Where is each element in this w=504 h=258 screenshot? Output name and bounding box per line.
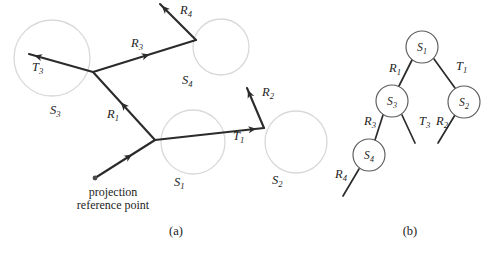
ray-arrowhead-r2 (245, 89, 255, 99)
surface-circle-s2 (265, 111, 327, 173)
projection-reference-point-label-line1: projection (89, 185, 138, 199)
surface-circle-s1 (161, 110, 225, 174)
tree-edge-label-t1: T1 (456, 59, 467, 75)
label-surface-s4: S4 (182, 73, 193, 89)
tree-edge-t3 (402, 115, 415, 143)
surface-circle-s3 (14, 20, 90, 96)
tree-edge-label-r2: R2 (435, 114, 449, 130)
label-surface-s2: S2 (272, 173, 283, 189)
ray-arrowheads-group (33, 3, 257, 162)
label-ray-r4: R4 (179, 3, 193, 19)
panel-a-labels-group: S3 S4 S1 S2 R1 R3 R4 R2 T3 T1 (32, 3, 283, 191)
tree-edge-r1 (399, 60, 412, 86)
label-surface-s3: S3 (50, 103, 61, 119)
tree-edge-label-r4: R4 (334, 167, 348, 183)
label-ray-t3: T3 (32, 60, 43, 76)
ray-tree-figure: S3 S4 S1 S2 R1 R3 R4 R2 T3 T1 projection… (0, 0, 504, 258)
label-ray-r3: R3 (130, 36, 143, 52)
surface-circles-group (14, 19, 327, 174)
tree-edge-r3 (375, 115, 383, 140)
panel-b-group: S1 S3 S2 S4 R1 T1 R3 T3 R2 R4 (b) (334, 31, 480, 238)
surface-circle-s4 (193, 19, 249, 75)
panel-a-group: S3 S4 S1 S2 R1 R3 R4 R2 T3 T1 projection… (14, 3, 327, 238)
caption-panel-b: (b) (403, 224, 418, 238)
label-ray-t1: T1 (233, 129, 244, 145)
tree-edge-label-r1: R1 (388, 61, 401, 77)
projection-reference-point-label-line2: reference point (77, 198, 150, 212)
tree-edge-label-r3: R3 (363, 114, 376, 130)
ray-segment-prp (95, 140, 155, 178)
label-ray-r2: R2 (261, 85, 275, 101)
ray-segment-t1 (155, 128, 264, 140)
label-ray-r1: R1 (106, 107, 119, 123)
projection-reference-point-dot (93, 176, 98, 181)
caption-panel-a: (a) (169, 224, 183, 238)
ray-segments-group (29, 4, 264, 178)
tree-edge-t1 (434, 59, 455, 88)
tree-edge-label-t3: T3 (419, 114, 430, 130)
label-surface-s1: S1 (174, 175, 185, 191)
figure-root: S3 S4 S1 S2 R1 R3 R4 R2 T3 T1 projection… (0, 0, 504, 258)
ray-arrowhead-prptos1 (124, 151, 135, 161)
